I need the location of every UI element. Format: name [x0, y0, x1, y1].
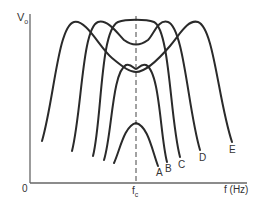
curve-label-A: A: [156, 168, 163, 178]
y-axis-label: Vo: [17, 12, 28, 25]
curve-label-D: D: [199, 153, 206, 163]
origin-label: 0: [22, 184, 28, 194]
x-axis-label: f (Hz): [224, 185, 248, 195]
coupling-response-diagram: [0, 0, 260, 209]
curve-label-C: C: [178, 160, 185, 170]
fc-label: fc: [132, 186, 138, 198]
curve-label-B: B: [165, 164, 172, 174]
curve-label-E: E: [229, 145, 236, 155]
